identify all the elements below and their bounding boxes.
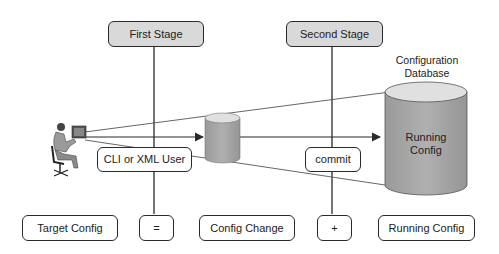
commit-box: commit bbox=[305, 147, 361, 172]
target-config-box: Target Config bbox=[22, 215, 118, 241]
database-title-line2: Database bbox=[385, 67, 469, 80]
second-stage-box: Second Stage bbox=[286, 21, 383, 47]
running-config-cylinder-label: Running Config bbox=[390, 131, 462, 157]
cylinder-label-line1: Running bbox=[390, 131, 462, 144]
plus-box: + bbox=[317, 215, 352, 241]
database-title: Configuration Database bbox=[385, 54, 469, 80]
candidate-config-cylinder-icon bbox=[205, 113, 240, 163]
person-at-workstation-icon bbox=[52, 123, 86, 176]
first-stage-box: First Stage bbox=[108, 21, 204, 47]
database-title-line1: Configuration bbox=[385, 54, 469, 67]
perspective-line-top bbox=[85, 90, 405, 132]
cli-xml-user-box: CLI or XML User bbox=[97, 147, 192, 172]
equals-box: = bbox=[139, 215, 174, 241]
running-config-box: Running Config bbox=[378, 215, 475, 241]
config-change-box: Config Change bbox=[199, 215, 295, 241]
cylinder-label-line2: Config bbox=[390, 144, 462, 157]
